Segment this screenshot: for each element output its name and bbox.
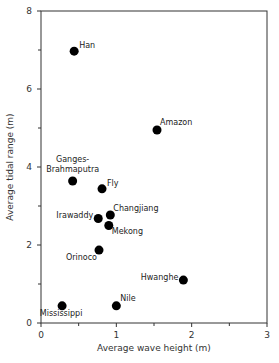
x-tick-label: 3 <box>264 330 270 340</box>
marker <box>94 214 103 223</box>
x-tick-label: 1 <box>113 330 119 340</box>
data-point-han: Han <box>70 41 96 56</box>
point-label: Orinoco <box>66 253 97 262</box>
marker <box>68 177 77 186</box>
y-tick-label: 4 <box>26 162 32 172</box>
data-point-ganges: Ganges-Brahmaputra <box>46 155 99 186</box>
y-tick-label: 6 <box>26 84 32 94</box>
data-point-changjiang: Changjiang <box>106 204 159 220</box>
data-point-mississippi: Mississippi <box>40 301 83 318</box>
y-tick-label: 0 <box>26 318 32 328</box>
data-point-hwanghe: Hwanghe <box>141 273 188 285</box>
point-label: Hwanghe <box>141 273 179 282</box>
y-tick-label: 8 <box>26 6 32 16</box>
x-axis: 0123 <box>38 323 270 340</box>
y-tick-label: 2 <box>26 240 32 250</box>
data-point-orinoco: Orinoco <box>66 246 104 263</box>
scatter-chart: 0123 02468 HanAmazonGanges-BrahmaputraFl… <box>0 0 279 363</box>
x-axis-title: Average wave height (m) <box>97 343 211 353</box>
point-label: Han <box>79 41 95 50</box>
point-label: Fly <box>107 179 119 188</box>
point-label: Changjiang <box>113 204 158 213</box>
point-label: Mekong <box>112 227 143 236</box>
point-label: Amazon <box>160 118 192 127</box>
x-tick-label: 2 <box>189 330 195 340</box>
marker <box>179 276 188 285</box>
data-point-mekong: Mekong <box>104 221 143 236</box>
y-axis-title: Average tidal range (m) <box>5 113 15 220</box>
point-label: Mississippi <box>40 309 83 318</box>
marker <box>98 184 107 193</box>
point-label: Irawaddy <box>56 211 93 220</box>
data-point-amazon: Amazon <box>153 118 193 135</box>
point-label: Nile <box>120 294 135 303</box>
y-axis: 02468 <box>26 6 41 328</box>
data-point-fly: Fly <box>98 179 119 194</box>
marker <box>70 47 79 56</box>
data-point-nile: Nile <box>112 294 136 311</box>
x-tick-label: 0 <box>38 330 44 340</box>
data-points: HanAmazonGanges-BrahmaputraFlyChangjiang… <box>40 41 193 318</box>
point-label: Ganges- <box>56 155 89 164</box>
point-label: Brahmaputra <box>46 165 99 174</box>
data-point-irawaddy: Irawaddy <box>56 211 102 223</box>
